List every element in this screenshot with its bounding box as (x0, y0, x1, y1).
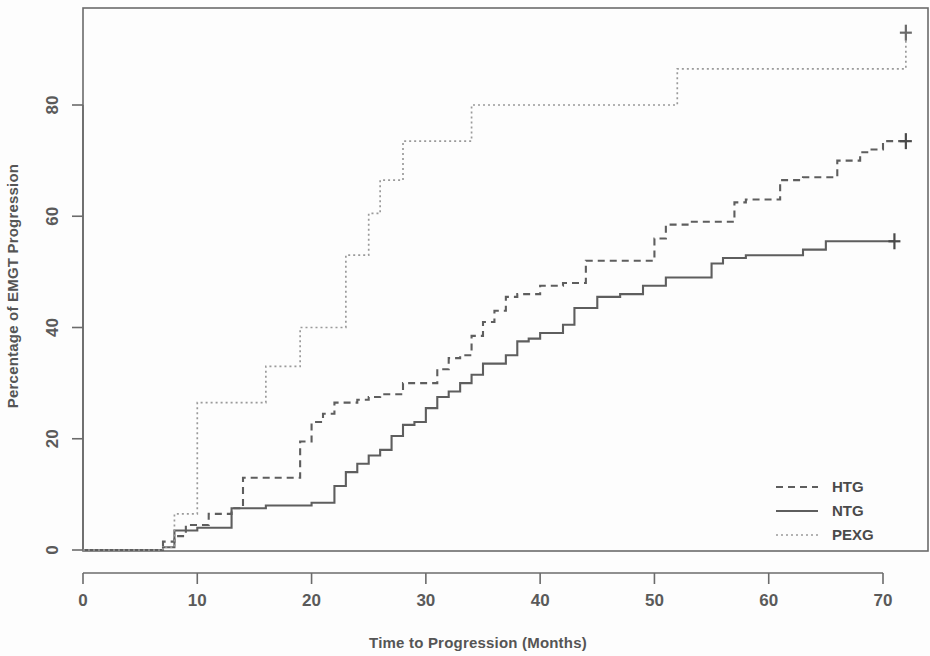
y-axis: 020406080 (43, 96, 84, 555)
x-tick-label: 50 (645, 591, 664, 610)
legend-item-htg: HTG (776, 478, 864, 495)
legend-label-pexg: PEXG (832, 526, 874, 543)
x-tick-label: 40 (531, 591, 550, 610)
x-tick-label: 60 (759, 591, 778, 610)
x-tick-label: 70 (874, 591, 893, 610)
x-axis-title: Time to Progression (Months) (369, 634, 587, 651)
legend: HTGNTGPEXG (776, 478, 874, 543)
legend-item-ntg: NTG (776, 502, 864, 519)
y-tick-label: 80 (43, 96, 62, 115)
censor-mark-ntg (888, 233, 900, 249)
x-tick-label: 10 (188, 591, 207, 610)
y-tick-label: 20 (43, 429, 62, 448)
x-tick-label: 20 (302, 591, 321, 610)
curve-ntg (83, 241, 894, 550)
data-curves (83, 33, 906, 550)
chart-figure: 020406080 010203040506070 HTGNTGPEXG Tim… (0, 0, 930, 656)
legend-label-htg: HTG (832, 478, 864, 495)
curve-htg (83, 141, 906, 550)
chart-svg: 020406080 010203040506070 HTGNTGPEXG Tim… (0, 0, 930, 656)
y-tick-label: 40 (43, 318, 62, 337)
x-axis: 010203040506070 (78, 573, 892, 610)
y-axis-title: Percentage of EMGT Progression (4, 164, 21, 408)
y-tick-label: 0 (43, 545, 62, 554)
censor-marks (888, 25, 911, 250)
legend-label-ntg: NTG (832, 502, 864, 519)
plot-frame (83, 8, 928, 551)
y-tick-label: 60 (43, 207, 62, 226)
curve-pexg (83, 33, 906, 550)
legend-item-pexg: PEXG (776, 526, 874, 543)
x-tick-label: 0 (78, 591, 87, 610)
censor-mark-pexg (900, 25, 912, 41)
x-tick-label: 30 (416, 591, 435, 610)
censor-mark-htg (900, 133, 912, 149)
